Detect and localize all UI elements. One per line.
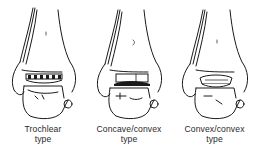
label-trochlear-line1: Trochlear (0, 124, 86, 134)
convex-convex-component (200, 75, 232, 87)
label-trochlear-line2: type (0, 134, 86, 144)
panel-concave-convex: Concave/convex type (86, 0, 172, 156)
label-concave-convex-line1: Concave/convex (86, 124, 172, 134)
convex-convex-ankle-illustration (172, 0, 257, 124)
ankle-implant-diagram: Trochlear type (0, 0, 257, 156)
concave-convex-component (114, 74, 150, 86)
label-convex-convex-line2: type (172, 134, 257, 144)
label-concave-convex-line2: type (86, 134, 172, 144)
panel-trochlear: Trochlear type (0, 0, 86, 156)
label-concave-convex: Concave/convex type (86, 124, 172, 144)
trochlear-ankle-illustration (0, 0, 86, 124)
label-convex-convex: Convex/convex type (172, 124, 257, 144)
panel-convex-convex: Convex/convex type (172, 0, 257, 156)
label-convex-convex-line1: Convex/convex (172, 124, 257, 134)
concave-convex-ankle-illustration (86, 0, 172, 124)
trochlear-component (26, 74, 62, 83)
label-trochlear: Trochlear type (0, 124, 86, 144)
